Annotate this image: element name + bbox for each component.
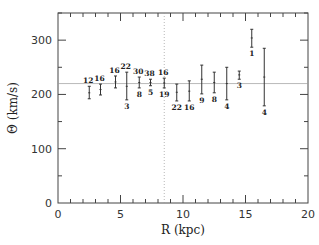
y-axis-title: Θ (km/s) bbox=[6, 82, 20, 134]
point-count-label: 8 bbox=[137, 90, 142, 99]
data-point: 385 bbox=[144, 69, 154, 97]
x-tick-label: 0 bbox=[55, 208, 62, 221]
y-tick-label: 0 bbox=[45, 197, 52, 210]
data-point: 308 bbox=[133, 67, 143, 99]
data-point: 22 bbox=[172, 84, 182, 112]
y-tick-label: 100 bbox=[31, 143, 52, 156]
plot-frame bbox=[58, 13, 308, 203]
data-point: 3 bbox=[237, 71, 242, 90]
x-tick-label: 5 bbox=[117, 208, 124, 221]
point-count-label: 1 bbox=[249, 49, 254, 58]
x-axis-title: R (kpc) bbox=[161, 223, 205, 237]
reference-lines bbox=[58, 13, 308, 203]
data-point: 4 bbox=[224, 67, 229, 111]
point-count-label: 4 bbox=[262, 108, 267, 117]
point-count-label: 12 bbox=[83, 76, 93, 85]
point-count-label: 5 bbox=[148, 88, 153, 97]
point-count-label: 16 bbox=[94, 74, 104, 83]
data-point: 16 bbox=[109, 66, 119, 88]
point-count-label: 16 bbox=[158, 68, 168, 77]
point-count-label: 3 bbox=[237, 81, 242, 90]
point-count-label: 22 bbox=[172, 103, 182, 112]
point-count-label: 8 bbox=[212, 95, 217, 104]
x-tick-label: 15 bbox=[239, 208, 253, 221]
data-point: 8 bbox=[212, 72, 217, 104]
x-tick-label: 10 bbox=[176, 208, 190, 221]
point-count-label: 3 bbox=[124, 102, 129, 111]
data-point: 16 bbox=[94, 74, 104, 95]
axis-ticks bbox=[58, 13, 308, 203]
point-count-label: 30 bbox=[133, 67, 143, 76]
data-point: 12 bbox=[83, 76, 93, 98]
point-count-label: 22 bbox=[121, 62, 131, 71]
data-point: 9 bbox=[199, 65, 204, 105]
point-count-label: 16 bbox=[184, 103, 194, 112]
y-tick-label: 300 bbox=[31, 34, 52, 47]
point-count-label: 9 bbox=[199, 96, 204, 105]
point-count-label: 38 bbox=[144, 69, 154, 78]
x-tick-labels: 05101520 bbox=[55, 208, 316, 221]
point-count-label: 16 bbox=[109, 66, 119, 75]
y-tick-label: 200 bbox=[31, 88, 52, 101]
data-point: 1 bbox=[249, 29, 254, 58]
rotation-curve-chart: 12161622330838516192216984314 05101520 0… bbox=[0, 0, 319, 245]
y-tick-labels: 0100200300 bbox=[31, 34, 52, 210]
data-points: 12161622330838516192216984314 bbox=[83, 29, 267, 117]
point-count-label: 19 bbox=[159, 90, 169, 99]
data-point: 16 bbox=[184, 81, 194, 112]
plot-border bbox=[58, 13, 308, 203]
point-count-label: 4 bbox=[224, 102, 229, 111]
x-tick-label: 20 bbox=[301, 208, 315, 221]
data-point: 4 bbox=[262, 48, 267, 117]
data-point: 223 bbox=[121, 62, 131, 111]
